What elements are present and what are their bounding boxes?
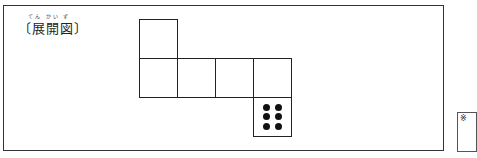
pip-icon [263, 113, 270, 120]
figure-title: 〔展開図〕 [18, 18, 88, 37]
net-face-row-3 [215, 58, 254, 98]
net-face-row-2 [177, 58, 216, 98]
net-face-row-4 [253, 58, 292, 98]
note-mark: ※ [460, 114, 467, 123]
pip-icon [263, 123, 270, 130]
pip-icon [275, 113, 282, 120]
net-face-six-pips [253, 97, 292, 137]
pip-icon [275, 104, 282, 111]
pip-icon [275, 123, 282, 130]
net-face-top [139, 19, 178, 59]
net-face-row-1 [139, 58, 178, 98]
pip-icon [263, 104, 270, 111]
note-box: ※ [457, 112, 477, 152]
